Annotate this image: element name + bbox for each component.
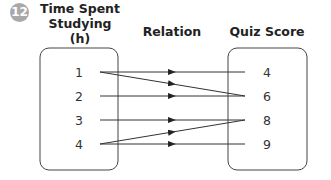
mapping-diagram (0, 0, 331, 180)
domain-value: 2 (69, 89, 89, 104)
mapping-arrow (100, 72, 172, 84)
mapping-arrow-tail (172, 120, 245, 132)
range-value: 4 (257, 65, 277, 80)
domain-value: 1 (69, 65, 89, 80)
mapping-arrow (100, 132, 172, 144)
range-value: 8 (257, 113, 277, 128)
mapping-arrows (100, 72, 245, 144)
range-value: 9 (257, 137, 277, 152)
domain-value: 4 (69, 137, 89, 152)
domain-value: 3 (69, 113, 89, 128)
mapping-arrow-tail (172, 84, 245, 96)
range-value: 6 (257, 89, 277, 104)
